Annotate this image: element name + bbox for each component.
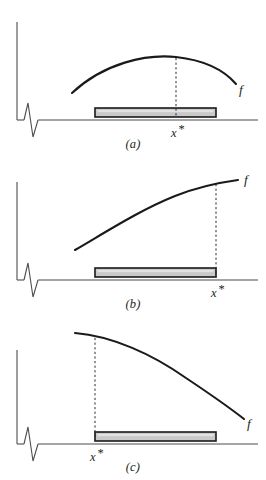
- interval-bar-highlight: [98, 434, 214, 436]
- panel-c-graphic: f x *: [0, 320, 266, 480]
- panel-caption-c: (c): [0, 460, 266, 475]
- optimum-label-star: *: [219, 282, 225, 296]
- interval-bar-highlight: [98, 110, 214, 112]
- interval-bar-highlight: [98, 270, 214, 272]
- panel-b: f x * (b): [0, 160, 266, 320]
- function-curve: [75, 333, 244, 419]
- panel-c: f x * (c): [0, 320, 266, 480]
- panel-a-graphic: f x *: [0, 0, 266, 160]
- function-label: f: [247, 416, 253, 431]
- optimum-label-star: *: [98, 446, 104, 460]
- axis-break-zigzag-icon: [24, 103, 38, 137]
- function-label: f: [239, 82, 245, 97]
- panel-a: f x * (a): [0, 0, 266, 160]
- panel-b-graphic: f x *: [0, 160, 266, 320]
- interval-bar: [95, 268, 216, 277]
- interval-bar: [95, 108, 216, 117]
- interval-bar: [95, 432, 216, 441]
- function-curve: [75, 180, 238, 250]
- axis-break-zigzag-icon: [24, 427, 38, 461]
- axis-break-zigzag-icon: [24, 263, 38, 297]
- function-curve: [72, 56, 236, 93]
- optimum-label-star: *: [179, 122, 185, 136]
- figure-root: f x * (a) f x * (b): [0, 0, 266, 480]
- panel-caption-a: (a): [0, 137, 266, 152]
- function-label: f: [244, 172, 250, 187]
- panel-caption-b: (b): [0, 297, 266, 312]
